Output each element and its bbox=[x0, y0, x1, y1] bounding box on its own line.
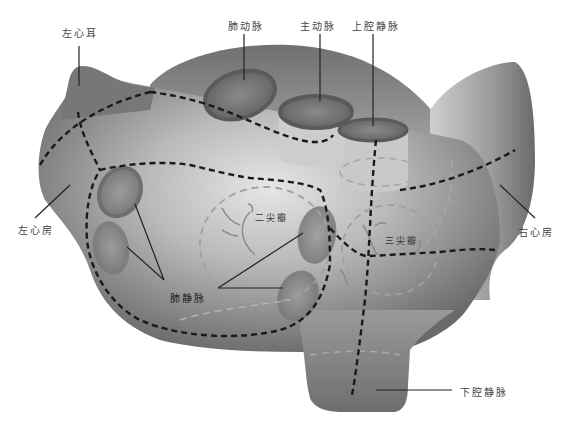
label-inferior-vena-cava: 下腔静脉 bbox=[460, 384, 508, 399]
label-right-atrium: 右心房 bbox=[518, 224, 554, 239]
label-tricuspid-valve: 三尖瓣 bbox=[385, 234, 418, 247]
label-left-atrium: 左心房 bbox=[18, 222, 54, 237]
label-left-auricle: 左心耳 bbox=[62, 25, 98, 40]
label-pulmonary-veins: 肺静脉 bbox=[170, 290, 206, 305]
label-aorta: 主动脉 bbox=[300, 18, 336, 33]
ivc-shape bbox=[300, 310, 455, 412]
label-pulmonary-artery: 肺动脉 bbox=[228, 18, 264, 33]
aorta-ring bbox=[280, 96, 352, 128]
label-superior-vena-cava: 上腔静脉 bbox=[352, 18, 400, 33]
label-mitral-valve: 二尖瓣 bbox=[255, 211, 288, 224]
